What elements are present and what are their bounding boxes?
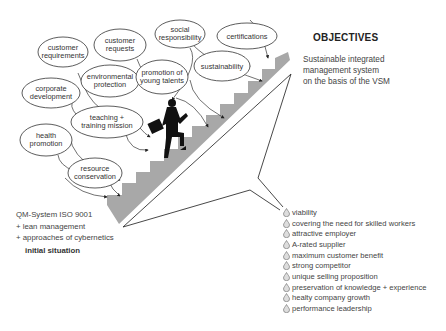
funnel-outline-lower: [123, 74, 291, 227]
bubble-label: young talents: [140, 76, 184, 85]
drop-icon: [283, 304, 290, 313]
funnel-outline: [258, 74, 291, 207]
objectives-description: Sustainable integrated management system…: [303, 54, 390, 87]
initial-line: + approaches of cybernetics: [16, 232, 114, 244]
drop-icon: [283, 293, 290, 302]
bubble-label: responsibility: [159, 33, 202, 42]
goal-list: viability covering the need for skilled …: [283, 207, 426, 314]
goal-item: covering the need for skilled workers: [283, 218, 426, 229]
goal-label: strong competitor: [292, 261, 351, 270]
bubble-label: conservation: [74, 172, 116, 181]
objectives-title: OBJECTIVES: [313, 32, 378, 43]
goal-label: A-rated supplier: [292, 240, 346, 249]
goal-label: healty company growth: [292, 293, 370, 302]
drop-icon: [283, 219, 290, 228]
goal-item: strong competitor: [283, 260, 426, 271]
drop-icon: [283, 208, 290, 217]
goal-item: maximum customer benefit: [283, 250, 426, 261]
goal-item: preservation of knowledge + experience: [283, 282, 426, 293]
drop-icon: [283, 272, 290, 281]
bubble-label: certifications: [226, 32, 267, 41]
drop-icon: [283, 229, 290, 238]
goal-label: covering the need for skilled workers: [292, 219, 415, 228]
bubble-label: promotion: [30, 139, 63, 148]
goal-label: viability: [292, 208, 317, 217]
goal-item: healty company growth: [283, 293, 426, 304]
goal-label: maximum customer benefit: [292, 251, 383, 260]
goal-label: attractive employer: [292, 229, 356, 238]
goal-label: preservation of knowledge + experience: [292, 283, 426, 292]
goal-item: performance leadership: [283, 303, 426, 314]
drop-icon: [283, 283, 290, 292]
drop-icon: [283, 261, 290, 270]
initial-situation-label: initial situation: [25, 246, 80, 255]
drop-icon: [283, 240, 290, 249]
bubble-label: requests: [106, 44, 135, 53]
drop-icon: [283, 251, 290, 260]
goal-item: viability: [283, 207, 426, 218]
bubble-label: requirements: [41, 51, 84, 60]
goal-label: unique selling proposition: [292, 272, 378, 281]
goal-item: unique selling proposition: [283, 271, 426, 282]
initial-situation-details: QM-System ISO 9001 + lean management + a…: [16, 209, 114, 244]
goal-label: performance leadership: [292, 304, 372, 313]
bubble-label: sustainability: [201, 62, 244, 71]
goal-item: A-rated supplier: [283, 239, 426, 250]
initial-line: + lean management: [16, 221, 114, 233]
goal-item: attractive employer: [283, 228, 426, 239]
bubble-label: development: [30, 92, 72, 101]
businessman-icon: [147, 99, 188, 158]
bubble-label: training mission: [81, 121, 132, 130]
initial-line: QM-System ISO 9001: [16, 209, 114, 221]
bubble-label: protection: [94, 80, 126, 89]
